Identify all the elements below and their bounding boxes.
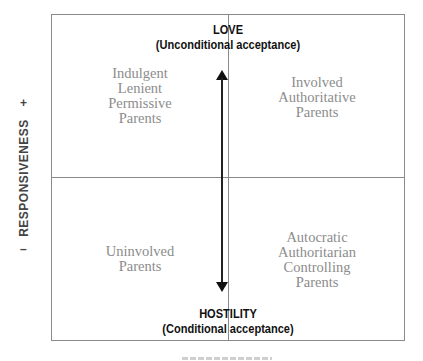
quadrant-line: Permissive	[90, 96, 190, 111]
arrow-shaft	[221, 78, 223, 284]
quadrant-line: Lenient	[90, 81, 190, 96]
top-heading-subtitle: (Unconditional acceptance)	[78, 37, 379, 52]
quadrant-line: Involved	[267, 75, 367, 90]
bottom-heading-subtitle: (Conditional acceptance)	[78, 321, 379, 336]
quadrant-line: Parents	[90, 111, 190, 126]
arrow-down-icon	[216, 282, 228, 292]
top-heading: LOVE (Unconditional acceptance)	[78, 22, 379, 52]
y-axis-label: RESPONSIVENESS	[17, 119, 31, 237]
quadrant-line: Parents	[267, 105, 367, 120]
quadrant-line: Authoritative	[267, 90, 367, 105]
quadrant-top-right: Involved Authoritative Parents	[267, 75, 367, 120]
y-axis-minus: –	[20, 242, 27, 256]
top-heading-title: LOVE	[78, 22, 379, 37]
horizontal-divider	[51, 177, 405, 178]
quadrant-line: Parents	[90, 259, 190, 274]
quadrant-line: Parents	[262, 275, 372, 290]
bottom-heading: HOSTILITY (Conditional acceptance)	[78, 306, 379, 336]
x-axis-label-clipped	[182, 357, 272, 361]
quadrant-top-left: Indulgent Lenient Permissive Parents	[90, 66, 190, 126]
quadrant-bottom-left: Uninvolved Parents	[90, 244, 190, 274]
y-axis-plus: +	[20, 96, 27, 110]
quadrant-line: Controlling	[262, 260, 372, 275]
quadrant-line: Autocratic	[262, 230, 372, 245]
bottom-heading-title: HOSTILITY	[78, 306, 379, 321]
quadrant-bottom-right: Autocratic Authoritarian Controlling Par…	[262, 230, 372, 290]
quadrant-line: Uninvolved	[90, 244, 190, 259]
quadrant-line: Indulgent	[90, 66, 190, 81]
quadrant-line: Authoritarian	[262, 245, 372, 260]
